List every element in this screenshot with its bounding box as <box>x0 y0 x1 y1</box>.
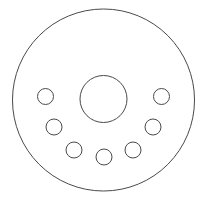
hub-center-bore <box>80 76 127 123</box>
brake-disc-drawing <box>0 0 204 200</box>
bolt-hole-3 <box>66 142 82 158</box>
bolt-hole-group <box>38 89 170 166</box>
bolt-hole-1 <box>38 89 54 105</box>
bolt-hole-6 <box>145 119 161 135</box>
bolt-hole-2 <box>46 119 62 135</box>
bolt-hole-7 <box>154 89 170 105</box>
bolt-hole-4 <box>96 149 112 165</box>
bolt-hole-5 <box>125 142 141 158</box>
disc-outer-edge <box>13 9 195 191</box>
technical-drawing-canvas <box>0 0 204 200</box>
